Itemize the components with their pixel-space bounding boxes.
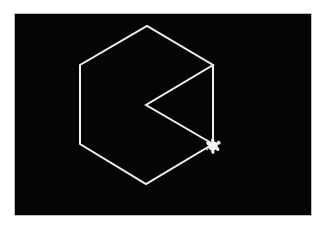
window — [0, 0, 326, 231]
turtle-path — [80, 26, 213, 184]
drawing-layer — [0, 0, 326, 231]
